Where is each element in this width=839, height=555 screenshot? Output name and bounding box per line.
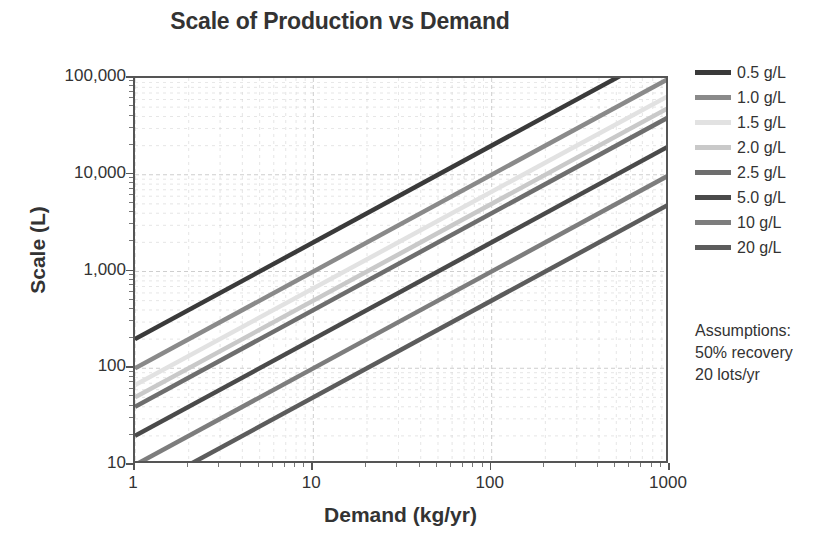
assumptions-heading: Assumptions: [695,320,793,342]
legend-item[interactable]: 2.0 g/L [695,135,827,160]
legend-item[interactable]: 1.0 g/L [695,85,827,110]
legend-label: 1.5 g/L [737,114,786,132]
series-line-5 [135,146,668,436]
legend-label: 10 g/L [737,214,781,232]
plot-area [133,76,668,463]
y-tick-label: 100 [98,356,126,376]
plot-frame [133,76,668,463]
legend-swatch-icon [695,70,731,75]
legend-item[interactable]: 20 g/L [695,235,827,260]
series-line-0 [135,78,668,339]
legend-swatch-icon [695,120,731,125]
legend-swatch-icon [695,95,731,100]
legend-swatch-icon [695,145,731,150]
x-tick-label: 1000 [649,473,687,493]
legend-swatch-icon [695,220,731,225]
x-tick-label: 100 [475,473,503,493]
legend-label: 2.5 g/L [737,164,786,182]
x-tick-label: 10 [302,473,321,493]
legend-item[interactable]: 2.5 g/L [695,160,827,185]
legend-item[interactable]: 10 g/L [695,210,827,235]
y-tick-label: 100,000 [65,66,126,86]
legend-item[interactable]: 1.5 g/L [695,110,827,135]
series-line-2 [135,95,668,385]
legend-swatch-icon [695,195,731,200]
x-tick-label: 1 [128,473,137,493]
y-axis-title: Scale (L) [26,160,50,340]
legend-swatch-icon [695,245,731,250]
series-line-1 [135,78,668,368]
chart-root: Scale of Production vs Demand Scale (L) … [0,0,839,555]
legend: 0.5 g/L1.0 g/L1.5 g/L2.0 g/L2.5 g/L5.0 g… [695,60,827,260]
legend-label: 20 g/L [737,239,781,257]
assumptions-line-1: 50% recovery [695,342,793,364]
y-tick-label: 10,000 [74,163,126,183]
legend-label: 1.0 g/L [737,89,786,107]
x-axis-title: Demand (kg/yr) [133,503,668,527]
y-tick-label: 1,000 [83,260,126,280]
series-line-3 [135,107,668,397]
y-tick-label: 10 [107,453,126,473]
legend-label: 5.0 g/L [737,189,786,207]
legend-swatch-icon [695,170,731,175]
series-line-6 [135,175,668,463]
legend-label: 2.0 g/L [737,139,786,157]
series-line-7 [189,204,668,463]
page-title: Scale of Production vs Demand [0,8,680,35]
legend-item[interactable]: 5.0 g/L [695,185,827,210]
series-line-4 [135,117,668,407]
legend-item[interactable]: 0.5 g/L [695,60,827,85]
assumptions-line-2: 20 lots/yr [695,364,793,386]
legend-label: 0.5 g/L [737,64,786,82]
assumptions-note: Assumptions: 50% recovery 20 lots/yr [695,320,793,386]
series-lines [135,78,668,463]
